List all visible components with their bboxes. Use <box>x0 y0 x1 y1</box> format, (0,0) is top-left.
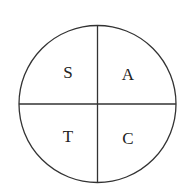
quadrant-label-bottom-right: C <box>122 129 133 148</box>
quadrant-label-top-left: S <box>63 63 72 82</box>
quadrant-label-top-right: A <box>122 65 135 84</box>
quadrant-label-bottom-left: T <box>63 127 74 146</box>
quadrant-circle-diagram: S A T C <box>0 0 195 194</box>
